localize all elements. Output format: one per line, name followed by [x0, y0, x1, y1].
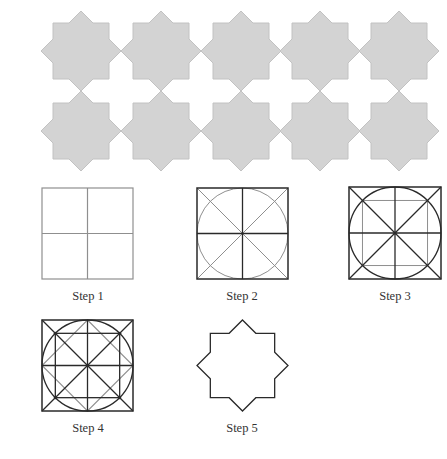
star-tile-pattern: [41, 11, 439, 171]
geometric-construction-diagram: [0, 0, 447, 459]
star-tile: [280, 11, 360, 91]
star-tile: [121, 91, 201, 171]
step-1-label: Step 1: [38, 289, 138, 303]
step-5-label: Step 5: [192, 421, 292, 435]
star-tile: [359, 91, 439, 171]
step-5-figure: [197, 320, 288, 411]
star-tile: [41, 91, 121, 171]
step-3-figure: [349, 187, 441, 279]
star-tile: [121, 11, 201, 91]
step-3-label: Step 3: [345, 289, 445, 303]
step-2-figure: [197, 188, 288, 279]
star-tile: [280, 91, 360, 171]
step-2-label: Step 2: [192, 289, 292, 303]
step-4-label: Step 4: [38, 421, 138, 435]
star-tile: [201, 91, 281, 171]
star-tile: [359, 11, 439, 91]
step-1-figure: [42, 188, 133, 279]
step-4-figure: [42, 320, 133, 411]
star-tile: [201, 11, 281, 91]
star-tile: [41, 11, 121, 91]
